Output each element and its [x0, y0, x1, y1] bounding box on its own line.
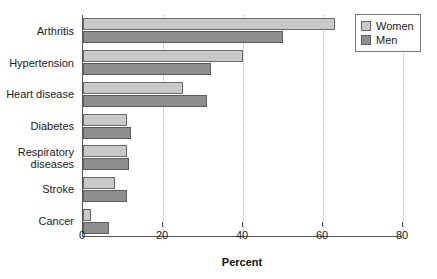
bar-men	[83, 31, 283, 43]
x-axis-tick	[242, 222, 243, 227]
bar-women	[83, 82, 183, 94]
x-axis-tick-label: 80	[396, 229, 408, 241]
x-axis-tick-label: 40	[236, 229, 248, 241]
bar-chart: 020406080 ArthritisHypertensionHeart dis…	[0, 0, 437, 279]
x-axis-tick	[82, 222, 83, 227]
category-label: Arthritis	[37, 25, 74, 37]
bar-women	[83, 177, 115, 189]
x-axis-tick	[402, 222, 403, 227]
bar-men	[83, 158, 129, 170]
bar-men	[83, 190, 127, 202]
category-label: Stroke	[42, 183, 74, 195]
bar-women	[83, 114, 127, 126]
legend-item-women[interactable]: Women	[361, 19, 414, 33]
legend-label-men: Men	[376, 34, 397, 46]
legend-label-women: Women	[376, 20, 414, 32]
gridline	[163, 15, 164, 236]
x-axis-tick-label: 20	[156, 229, 168, 241]
bar-women	[83, 18, 335, 30]
bar-women	[83, 50, 243, 62]
x-axis-tick-label: 0	[79, 229, 85, 241]
bar-men	[83, 127, 131, 139]
category-label: Cancer	[39, 215, 74, 227]
x-axis-tick-label: 60	[316, 229, 328, 241]
category-label: Heart disease	[6, 88, 74, 100]
bar-men	[83, 63, 211, 75]
legend-swatch-women-icon	[361, 21, 371, 31]
gridline	[243, 15, 244, 236]
bar-women	[83, 145, 127, 157]
legend-swatch-men-icon	[361, 35, 371, 45]
bar-men	[83, 95, 207, 107]
category-label: Diabetes	[31, 120, 74, 132]
legend-item-men[interactable]: Men	[361, 33, 414, 47]
x-axis-tick	[162, 222, 163, 227]
legend: Women Men	[355, 14, 421, 52]
bar-women	[83, 209, 91, 221]
x-axis-tick	[322, 222, 323, 227]
bar-men	[83, 222, 109, 234]
x-axis-title: Percent	[82, 256, 402, 268]
gridline	[323, 15, 324, 236]
category-label: Hypertension	[9, 57, 74, 69]
category-label: Respiratory diseases	[18, 146, 74, 170]
plot-area	[82, 15, 402, 237]
